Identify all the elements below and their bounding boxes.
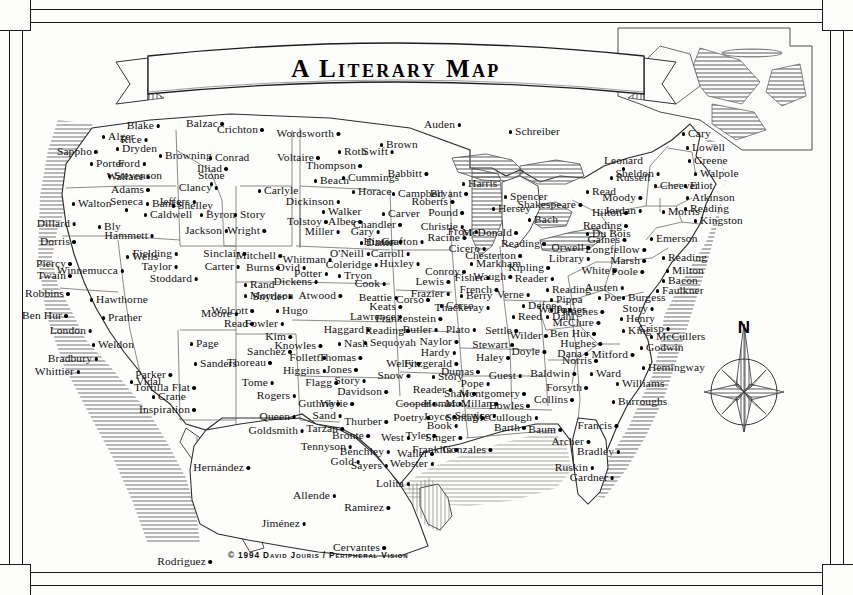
map-place-dot xyxy=(546,288,550,292)
map-place-label: Davidson xyxy=(337,386,382,397)
map-place-dot xyxy=(432,402,436,406)
map-place-label: Brown xyxy=(386,139,418,150)
map-place-label: Clancy xyxy=(179,182,212,193)
map-place-label: Stewart xyxy=(472,339,508,350)
map-place-name: Doyle xyxy=(511,346,540,357)
map-place-name: Tortilla Flat xyxy=(134,382,190,393)
map-place-dot xyxy=(586,440,590,444)
map-place-name: Higgins xyxy=(283,365,320,376)
map-place-name: Haggard xyxy=(324,324,364,335)
map-place-label: Norris xyxy=(562,355,592,366)
map-place-label: West xyxy=(381,432,404,443)
map-place-name: Sayers xyxy=(351,460,382,471)
map-place-dot xyxy=(146,202,150,206)
map-place-dot xyxy=(336,200,340,204)
map-place-name: Hemingway xyxy=(648,362,705,373)
map-place-name: Leonard xyxy=(604,155,643,166)
map-place-dot xyxy=(192,408,196,412)
map-place-dot xyxy=(194,362,198,366)
map-place-dot xyxy=(142,162,146,166)
map-place-label: Dillard xyxy=(37,218,70,229)
map-place-dot xyxy=(506,356,510,360)
map-place-label: Follett xyxy=(289,352,320,363)
map-place-label: Ovid xyxy=(277,262,300,273)
map-place-label: Allende xyxy=(293,490,330,501)
map-place-name: Collins xyxy=(534,394,568,405)
map-place-dot xyxy=(102,135,106,139)
map-place-dot xyxy=(398,305,402,309)
map-place-dot xyxy=(522,392,526,396)
map-place-name: Stevenson xyxy=(114,170,162,181)
map-place-name: Gonzales xyxy=(442,444,486,455)
map-place-name: Bach xyxy=(534,214,558,225)
map-place-dot xyxy=(130,380,134,384)
map-place-name: Eliot xyxy=(690,180,713,191)
map-place-name: Cooper xyxy=(396,398,430,409)
map-place-label: Frost xyxy=(448,226,472,237)
map-place-dot xyxy=(398,223,402,227)
map-place-name: Follett xyxy=(289,352,320,363)
map-place-name: Reed xyxy=(518,311,542,322)
map-place-dot xyxy=(322,210,326,214)
map-place-name: Sheldon xyxy=(616,168,654,179)
map-place-name: Corso xyxy=(396,294,424,305)
map-place-label: Cook xyxy=(355,278,380,289)
map-place-label: Goldsmith xyxy=(249,425,298,436)
map-place-dot xyxy=(386,450,390,454)
map-place-label: McMillan xyxy=(445,398,492,409)
map-place-dot xyxy=(640,270,644,274)
map-place-label: Jackson xyxy=(185,225,222,236)
map-place-label: Robbins xyxy=(25,288,64,299)
map-place-dot xyxy=(594,359,598,363)
map-place-dot xyxy=(234,213,238,217)
map-place-dot xyxy=(250,309,254,313)
map-place-name: Thompson xyxy=(306,160,356,171)
map-place-dot xyxy=(452,351,456,355)
map-place-label: Seneca xyxy=(110,196,143,207)
map-place-name: Poe xyxy=(604,292,622,303)
map-place-name: Fowler xyxy=(245,318,278,329)
map-place-label: Reading xyxy=(501,238,540,249)
compass-rose xyxy=(704,324,784,432)
map-place-dot xyxy=(64,314,68,318)
map-place-name: Walton xyxy=(78,198,112,209)
map-place-name: Hinton xyxy=(363,236,396,247)
map-place-name: Balzac xyxy=(186,118,218,129)
map-place-name: Baldwin xyxy=(530,368,570,379)
map-place-dot xyxy=(596,321,600,325)
map-place-name: Sinclair xyxy=(203,248,240,259)
map-place-dot xyxy=(508,275,512,279)
map-place-label: Thackeray xyxy=(435,302,484,313)
map-place-label: Reader xyxy=(413,384,446,395)
map-place-label: Snyder xyxy=(253,291,286,302)
map-place-label: Reed xyxy=(518,311,542,322)
map-place-dot xyxy=(654,184,658,188)
map-place-label: Higgins xyxy=(283,365,320,376)
map-place-dot xyxy=(472,328,476,332)
map-place-dot xyxy=(390,150,394,154)
map-place-dot xyxy=(302,266,306,270)
map-place-name: Harris xyxy=(468,178,497,189)
map-place-label: Winnemucca xyxy=(57,265,118,276)
map-place-label: Weldon xyxy=(98,339,134,350)
map-place-label: Leonard xyxy=(604,155,643,166)
map-place-dot xyxy=(384,420,388,424)
map-place-dot xyxy=(612,400,616,404)
map-place-label: Lolita xyxy=(376,478,404,489)
map-place-label: Ward xyxy=(596,368,621,379)
map-place-name: Jackson xyxy=(185,225,222,236)
map-place-dot xyxy=(522,304,526,308)
map-place-name: Brown xyxy=(386,139,418,150)
map-place-dot xyxy=(460,294,464,298)
map-place-label: Doyle xyxy=(511,346,540,357)
map-place-name: Jiménez xyxy=(262,518,300,529)
map-place-dot xyxy=(94,150,98,154)
map-place-name: Miller xyxy=(305,226,334,237)
map-place-dot xyxy=(666,269,670,273)
map-place-dot xyxy=(450,200,454,204)
copyright-credit: © 1994 David Jouris / Peripheral Vision xyxy=(228,551,409,560)
map-place-dot xyxy=(354,368,358,372)
map-place-dot xyxy=(638,209,642,213)
map-place-label: Hawthorne xyxy=(96,294,148,305)
map-place-label: Williams xyxy=(622,378,665,389)
